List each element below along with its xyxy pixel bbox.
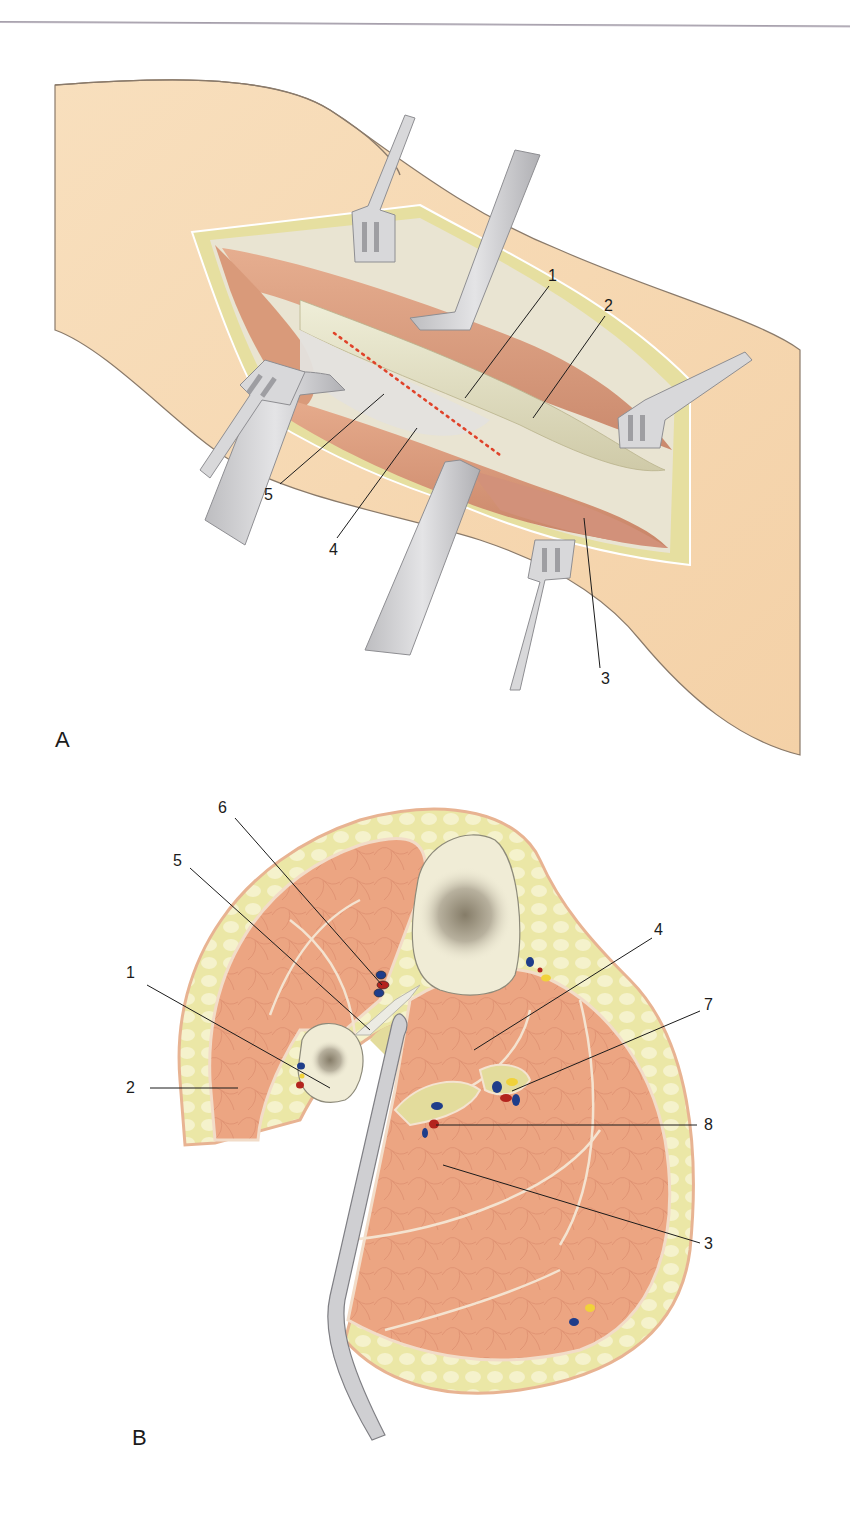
callout-a-4: 4 (329, 542, 338, 558)
callout-b-3: 3 (704, 1236, 713, 1252)
panel-label-b: B (132, 1427, 147, 1449)
panel-label-a: A (55, 729, 70, 751)
callout-a-5: 5 (264, 487, 273, 503)
fork-retractor-bottom (510, 540, 575, 690)
callout-a-1: 1 (548, 268, 557, 284)
panel-b-cross-section (0, 760, 850, 1519)
callout-a-2: 2 (604, 298, 613, 314)
callout-b-5: 5 (173, 853, 182, 869)
callout-b-7: 7 (704, 997, 713, 1013)
callout-b-8: 8 (704, 1117, 713, 1133)
callout-b-6: 6 (218, 800, 227, 816)
callout-b-2: 2 (126, 1080, 135, 1096)
panel-a-illustration (0, 0, 850, 760)
callout-b-1: 1 (126, 965, 135, 981)
callout-a-3: 3 (601, 671, 610, 687)
callout-b-4: 4 (654, 922, 663, 938)
